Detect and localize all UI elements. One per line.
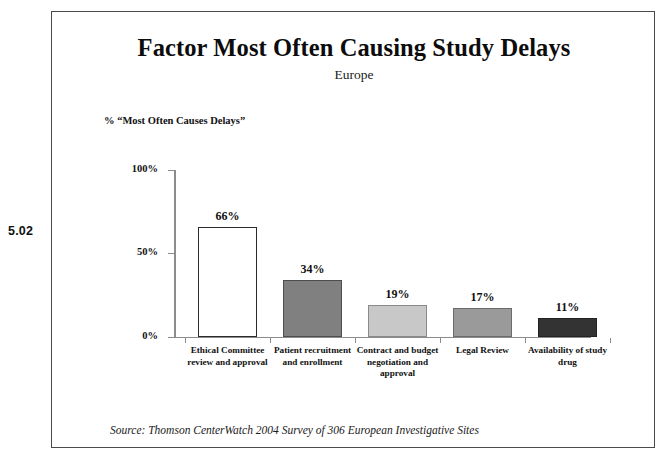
x-axis-tick-mark — [525, 338, 526, 343]
x-axis-tick-mark — [185, 338, 186, 343]
chart-subtitle: Europe — [52, 67, 656, 83]
x-axis-category-label: Availability of studydrug — [521, 345, 614, 368]
slide-frame: Factor Most Often Causing Study Delays E… — [51, 11, 655, 448]
chart-title: Factor Most Often Causing Study Delays — [52, 34, 656, 62]
y-axis-tick-mark — [168, 253, 174, 254]
bar-chart-plot-area: 0%50%100% 66%34%19%17%11% Ethical Commit… — [162, 162, 602, 362]
y-axis-tick-label: 100% — [132, 163, 158, 174]
y-axis-tick-mark — [168, 337, 174, 338]
x-axis-category-label-line: Contract and budget — [351, 345, 444, 357]
bar-value-label: 17% — [471, 290, 495, 305]
x-axis-category-label-line: approval — [351, 368, 444, 380]
x-axis-category-label-line: negotiation and — [351, 357, 444, 369]
y-axis-tick-mark — [168, 170, 174, 171]
bar: 66% — [198, 227, 257, 337]
x-axis-tick-mark — [355, 338, 356, 343]
x-axis-tick-mark — [440, 338, 441, 343]
x-axis-category-label: Legal Review — [436, 345, 529, 357]
x-axis-category-label: Ethical Committeereview and approval — [181, 345, 274, 368]
bar: 19% — [368, 305, 427, 337]
y-axis-label: % “Most Often Causes Delays” — [104, 114, 254, 127]
x-axis-category-label-line: and enrollment — [266, 357, 359, 369]
x-axis-category-label-line: review and approval — [181, 357, 274, 369]
x-axis-category-label: Contract and budgetnegotiation andapprov… — [351, 345, 444, 380]
x-axis-category-label-line: Patient recruitment — [266, 345, 359, 357]
bar: 17% — [453, 308, 512, 336]
x-axis-category-label-line: Availability of study — [521, 345, 614, 357]
y-axis-tick-label: 0% — [142, 330, 158, 341]
x-axis-line — [174, 337, 591, 339]
x-axis-tick-mark — [610, 338, 611, 343]
bar: 11% — [538, 318, 597, 336]
y-axis-tick-label: 50% — [137, 246, 158, 257]
x-axis-category-label-line: Ethical Committee — [181, 345, 274, 357]
x-axis-category-label-line: drug — [521, 357, 614, 369]
bar-value-label: 19% — [386, 287, 410, 302]
x-axis-category-label-line: Legal Review — [436, 345, 529, 357]
bar-value-label: 34% — [301, 262, 325, 277]
x-axis-tick-mark — [270, 338, 271, 343]
figure-number: 5.02 — [8, 224, 33, 238]
bar-value-label: 11% — [556, 300, 579, 315]
source-note: Source: Thomson CenterWatch 2004 Survey … — [110, 424, 479, 436]
bar-value-label: 66% — [216, 209, 240, 224]
x-axis-category-label: Patient recruitmentand enrollment — [266, 345, 359, 368]
y-axis-line — [174, 170, 176, 338]
bar: 34% — [283, 280, 342, 337]
